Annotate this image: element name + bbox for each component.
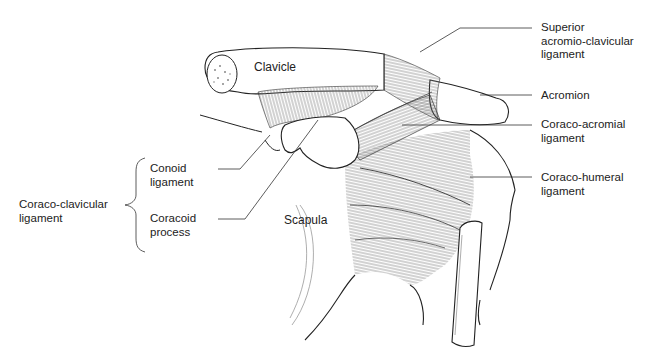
leader-superior-ac xyxy=(420,28,532,52)
label-line: ligament xyxy=(541,48,634,62)
label-scapula: Scapula xyxy=(284,214,327,228)
label-line: ligament xyxy=(541,185,623,199)
leader-conoid xyxy=(218,135,270,169)
label-coraco-clavicular-ligament: Coraco-clavicular ligament xyxy=(19,198,108,225)
label-line: ligament xyxy=(541,132,625,146)
label-coraco-humeral-ligament: Coraco-humeral ligament xyxy=(541,171,623,198)
label-line: Superior xyxy=(541,21,634,35)
shoulder-ligament-diagram: Clavicle Scapula Superior acromio-clavic… xyxy=(0,0,654,359)
label-line: ligament xyxy=(150,176,193,190)
label-superior-acromio-clavicular-ligament: Superior acromio-clavicular ligament xyxy=(541,21,634,62)
label-conoid-ligament: Conoid ligament xyxy=(150,162,193,189)
label-line: Conoid xyxy=(150,162,193,176)
label-line: Coracoid xyxy=(150,212,196,226)
acromion xyxy=(429,80,508,125)
label-line: Coraco-clavicular xyxy=(19,198,108,212)
label-line: ligament xyxy=(19,212,108,226)
label-acromion: Acromion xyxy=(541,89,590,103)
label-line: Coraco-acromial xyxy=(541,118,625,132)
label-coraco-acromial-ligament: Coraco-acromial ligament xyxy=(541,118,625,145)
clavicle-cross-section xyxy=(207,55,237,93)
label-line: process xyxy=(150,226,196,240)
coraco-clavicular-brace xyxy=(125,158,145,252)
label-clavicle: Clavicle xyxy=(254,61,296,75)
label-line: Coraco-humeral xyxy=(541,171,623,185)
label-coracoid-process: Coracoid process xyxy=(150,212,196,239)
label-line: acromio-clavicular xyxy=(541,35,634,49)
